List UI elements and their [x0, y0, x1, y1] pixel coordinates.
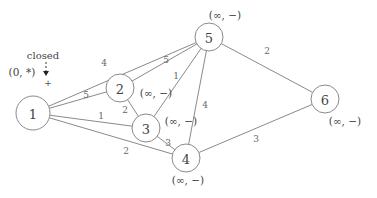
node-6-state: (∞, −)	[329, 115, 361, 127]
edge-4-5	[186, 37, 209, 158]
node-1: 1	[16, 96, 50, 130]
node-label: 6	[321, 93, 329, 108]
edge-weight-1-2: 5	[83, 90, 89, 100]
node-6: 6	[311, 85, 339, 113]
edge-1-4	[33, 113, 186, 158]
node-4-state: (∞, −)	[172, 174, 204, 186]
node-5-state: (∞, −)	[209, 9, 241, 21]
edge-weight-2-5: 5	[163, 55, 169, 65]
node-label: 1	[29, 107, 37, 122]
arrow-down-icon	[43, 71, 49, 76]
edge-weight-1-4: 2	[123, 146, 129, 156]
edges-layer	[33, 37, 325, 158]
edge-weights-layer: 45125213423	[83, 46, 270, 156]
closed-label: closed	[27, 50, 60, 61]
node-3-state: (∞, −)	[165, 115, 197, 127]
node-1-state: (0, *)	[9, 66, 36, 78]
node-label: 5	[205, 31, 213, 46]
edge-weight-1-3: 1	[98, 111, 104, 121]
node-5: 5	[195, 23, 223, 51]
edge-weight-2-3: 2	[122, 105, 128, 115]
edge-weight-3-5: 1	[173, 71, 179, 81]
node-label: 3	[142, 122, 150, 137]
nodes-layer: 123456	[16, 23, 339, 172]
graph-diagram: 45125213423 123456 (0, *)(∞, −)(∞, −)(∞,…	[0, 0, 377, 198]
edge-weight-1-5: 4	[101, 58, 107, 68]
edge-weight-5-6: 2	[264, 46, 270, 56]
edge-weight-4-5: 4	[202, 100, 208, 110]
node-3: 3	[132, 114, 160, 142]
node-2: 2	[106, 74, 134, 102]
node-4: 4	[172, 144, 200, 172]
edge-weight-4-6: 3	[253, 134, 259, 144]
node-label: 2	[116, 82, 124, 97]
node-2-state: (∞, −)	[140, 87, 172, 99]
node-label: 4	[182, 152, 190, 167]
plus-marker: +	[44, 78, 52, 88]
edge-weight-3-4: 3	[165, 138, 171, 148]
